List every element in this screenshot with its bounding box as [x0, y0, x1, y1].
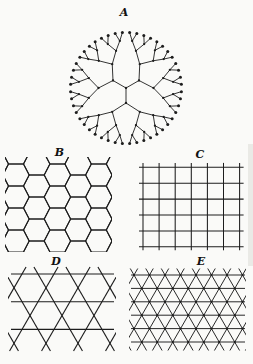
panel-b-honeycomb-lattice [0, 142, 133, 263]
lattice-figure: A B C D E [0, 0, 253, 364]
panel-a-label: A [119, 6, 129, 19]
panel-c-label: C [196, 148, 205, 161]
panel-e-triangular-lattice [0, 269, 253, 351]
panel-c-square-lattice [139, 163, 244, 250]
figure-page: A B C D E [0, 0, 253, 364]
scan-artifact-right-band [248, 144, 253, 266]
panel-d-label: D [50, 255, 61, 268]
panel-a-bethe-tree [69, 31, 183, 145]
panel-e-label: E [196, 255, 206, 268]
panel-b-label: B [54, 146, 64, 159]
